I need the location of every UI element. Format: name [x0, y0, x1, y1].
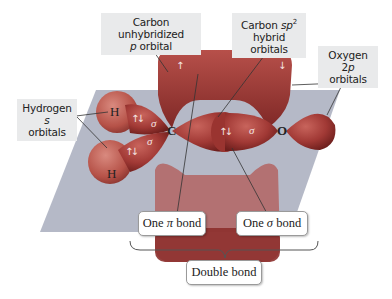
sigma-label-co: σ	[249, 124, 254, 136]
box-text: One	[243, 216, 267, 230]
box-text: Double bond	[192, 265, 257, 279]
pi-bond-box: One π bond	[138, 211, 206, 236]
label-carbon-sp2-orbitals: Carbon sp2 hybrid orbitals	[232, 13, 306, 58]
label-oxygen-2p-orbitals: Oxygen 2p orbitals	[318, 46, 378, 88]
label-text: Hydrogen	[22, 102, 71, 114]
sigma-bond-box: One σ bond	[236, 211, 308, 236]
atom-hydrogen-top: H	[110, 104, 119, 120]
box-text: One	[143, 216, 167, 230]
box-text: bond	[173, 216, 201, 230]
label-text-italic: sp	[281, 19, 293, 31]
label-text: orbital	[136, 40, 172, 52]
label-superscript: 2	[293, 18, 297, 26]
atom-hydrogen-bottom: H	[107, 166, 116, 182]
electron-pair-ch-bottom: ↑↓	[125, 146, 136, 157]
electron-pair-ch-top: ↑↓	[131, 113, 142, 124]
double-bond-box: Double bond	[186, 260, 262, 285]
sigma-label-ch-bottom: σ	[147, 135, 152, 147]
label-text: hybrid orbitals	[250, 31, 288, 55]
electron-pi-down: ↓	[278, 60, 283, 71]
label-hydrogen-s-orbitals: Hydrogen s orbitals	[17, 99, 77, 141]
box-text: bond	[273, 216, 301, 230]
label-carbon-p-orbital: Carbon unhybridized p orbital	[101, 13, 201, 55]
label-text: orbitals	[28, 126, 66, 138]
label-text: Carbon unhybridized	[118, 16, 184, 40]
sigma-label-ch-top: σ	[151, 117, 156, 129]
electron-pi-up: ↑	[176, 60, 181, 71]
label-text: Carbon	[241, 19, 281, 31]
atom-oxygen: O	[277, 123, 287, 139]
label-text: orbitals	[329, 73, 367, 85]
electron-pair-co-sigma: ↑↓	[219, 126, 230, 137]
atom-carbon: C	[167, 123, 176, 139]
label-text-italic: p	[348, 61, 354, 73]
label-text-italic: s	[44, 114, 49, 126]
